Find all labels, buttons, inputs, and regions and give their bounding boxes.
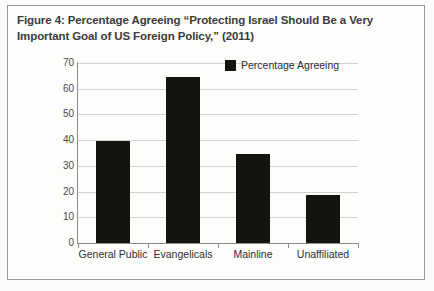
bar-general-public xyxy=(96,141,130,243)
chart-legend: Percentage Agreeing xyxy=(225,60,339,71)
y-axis-tick-label: 30 xyxy=(52,161,74,171)
y-axis-tick-label: 70 xyxy=(52,58,74,68)
bar-evangelicals xyxy=(166,77,200,243)
figure-caption: Figure 4: Percentage Agreeing “Protectin… xyxy=(17,12,417,44)
gridline xyxy=(78,114,358,115)
gridline xyxy=(78,89,358,90)
y-axis-tick-labels: 706050403020100 xyxy=(50,63,74,243)
x-axis-tick-label: Unaffiliated xyxy=(280,248,366,261)
x-axis-tick-mark xyxy=(358,243,359,248)
plot-area xyxy=(78,63,358,243)
y-axis-tick-label: 60 xyxy=(52,84,74,94)
y-axis-line xyxy=(77,62,78,244)
bar-unaffiliated xyxy=(306,195,340,243)
figure-caption-line1: Figure 4: Percentage Agreeing “Protectin… xyxy=(17,14,373,26)
legend-item-label: Percentage Agreeing xyxy=(241,60,339,71)
y-axis-tick-label: 0 xyxy=(52,238,74,248)
y-axis-tick-label: 10 xyxy=(52,212,74,222)
y-axis-tick-label: 40 xyxy=(52,135,74,145)
x-axis-tick-mark xyxy=(78,243,79,248)
figure-page: Figure 4: Percentage Agreeing “Protectin… xyxy=(0,0,434,291)
black-square-icon xyxy=(225,60,236,71)
y-axis-tick-label: 50 xyxy=(52,109,74,119)
bar-mainline xyxy=(236,154,270,243)
figure-caption-line2: Important Goal of US Foreign Policy,” (2… xyxy=(17,28,417,44)
y-axis-tick-label: 20 xyxy=(52,187,74,197)
